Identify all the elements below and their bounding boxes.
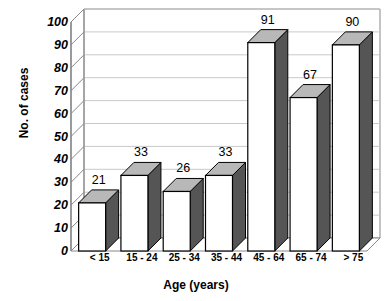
bar-value-label: 90 [322, 15, 382, 29]
bar-value-label: 33 [111, 145, 171, 159]
y-axis-title: No. of cases [17, 33, 31, 173]
bar-value-label: 91 [238, 13, 298, 27]
bar-value-label: 26 [153, 161, 213, 175]
bar-value-labels: 21332633916790 [0, 0, 392, 301]
bar-value-label: 33 [196, 145, 256, 159]
bar-chart: 0102030405060708090100 < 1515 - 2425 - 3… [0, 0, 392, 301]
bar-value-label: 67 [280, 68, 340, 82]
bar-value-label: 21 [69, 173, 129, 187]
x-axis-title: Age (years) [0, 278, 392, 292]
